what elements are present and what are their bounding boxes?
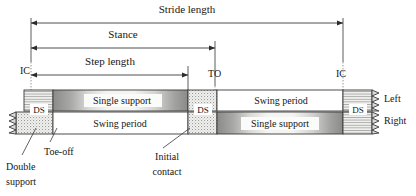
break-symbol-left xyxy=(9,112,16,134)
single-support-left-label: Single support xyxy=(93,95,151,106)
side-label-right: Right xyxy=(384,115,406,126)
ds-label-1: DS xyxy=(33,105,45,115)
side-labels: Left Right xyxy=(384,93,406,126)
stance-label: Stance xyxy=(108,28,137,40)
callout-initial-contact: Initial contact xyxy=(153,128,190,177)
gait-cycle-figure: Stride length Stance Step length IC TO I… xyxy=(0,0,416,196)
figure-canvas: Stride length Stance Step length IC TO I… xyxy=(0,0,416,196)
marker-ic-right: IC xyxy=(336,68,346,79)
toe-off-label: Toe-off xyxy=(44,146,74,157)
marker-to: TO xyxy=(208,68,221,79)
callout-double-support: Double support xyxy=(6,128,36,187)
initial-contact-line2: contact xyxy=(153,166,182,177)
dimension-stance: Stance xyxy=(31,28,215,48)
break-symbol-right xyxy=(372,90,379,134)
single-support-right-label: Single support xyxy=(251,118,309,129)
segment-ds-r2 xyxy=(343,112,372,134)
double-support-line2: support xyxy=(6,176,36,187)
initial-contact-line1: Initial xyxy=(155,151,179,162)
event-markers: IC TO IC xyxy=(20,65,346,79)
segment-ds-r1 xyxy=(188,112,217,134)
reference-lines xyxy=(31,18,343,92)
dimension-step-length: Step length xyxy=(31,55,188,75)
ds-label-2: DS xyxy=(197,105,209,115)
ds-label-3: DS xyxy=(352,105,364,115)
bar-right: Swing period Single support xyxy=(16,112,372,134)
side-label-left: Left xyxy=(384,93,401,104)
swing-right-label: Swing period xyxy=(93,118,147,129)
marker-ic-left: IC xyxy=(20,65,30,76)
double-support-line1: Double xyxy=(6,161,36,172)
step-length-label: Step length xyxy=(85,55,135,67)
swing-left-label: Swing period xyxy=(254,95,308,106)
stride-label: Stride length xyxy=(159,3,216,15)
dimension-stride: Stride length xyxy=(31,3,343,23)
